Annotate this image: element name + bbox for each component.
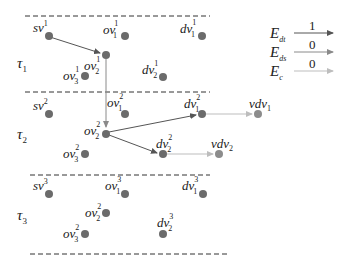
label-dv23: dv32 [157,212,173,233]
node-sv2 [45,110,53,118]
svg-text:0: 0 [309,56,316,71]
node-ov33 [81,230,89,238]
node-ov32 [81,150,89,158]
label-dv21: dv12 [142,59,158,80]
label-sv2: sv2 [33,97,48,113]
layer-label-tau2: τ2 [17,126,27,145]
node-ov21 [102,51,110,59]
node-dv11 [198,32,206,40]
node-sv1 [45,32,53,40]
label-dv22: dv22 [156,133,172,154]
svg-text:Eds: Eds [269,44,286,63]
node-dv23 [159,230,167,238]
label-dv12: dv21 [184,93,200,114]
node-ov13 [121,190,129,198]
node-labels: sv1 ov11 dv11 ov12 ov13 dv12 sv2 ov21 dv… [33,18,271,244]
svg-text:Edt: Edt [269,25,286,44]
layer-label-tau1: τ1 [17,55,27,74]
label-dv11: dv11 [180,18,196,39]
node-vdv2 [215,150,223,158]
label-ov22: ov22 [84,120,100,141]
node-ov22 [102,130,110,138]
svg-text:0: 0 [309,37,316,52]
edge-ov22-dv22 [109,135,157,153]
label-ov12: ov21 [107,92,123,113]
label-ov32: ov23 [63,143,79,164]
node-ov11 [121,32,129,40]
label-ov23: ov22 [85,202,101,223]
edge-ov22-dv12 [109,115,196,132]
label-vdv1: vdv1 [249,96,271,113]
label-dv13: dv31 [182,175,198,196]
node-dv13 [199,190,207,198]
label-vdv2: vdv2 [211,136,233,153]
label-ov11: ov11 [103,19,118,40]
legend-item-edt: Edt 1 [269,18,333,44]
node-sv3 [45,190,53,198]
svg-text:Ec: Ec [269,63,283,82]
diagram-canvas: τ1 τ2 τ3 sv1 ov11 dv11 ov12 ov13 dv12 sv… [0,0,350,273]
node-dv21 [159,73,167,81]
layer-labels: τ1 τ2 τ3 [17,55,27,226]
label-sv1: sv1 [33,19,48,35]
label-sv3: sv3 [33,177,48,193]
node-ov31 [81,72,89,80]
svg-text:1: 1 [309,18,316,33]
label-ov21: ov12 [84,55,100,76]
label-ov13: ov31 [105,175,121,196]
layer-separators [25,16,228,254]
legend: Edt 1 Eds 0 Ec 0 [269,18,333,82]
layer-label-tau3: τ3 [17,207,27,226]
node-dv22 [159,150,167,158]
label-ov31: ov13 [63,65,79,86]
label-ov33: ov23 [63,223,79,244]
node-vdv1 [254,110,262,118]
node-ov23 [102,209,110,217]
edge-sv1-ov21 [50,37,100,53]
